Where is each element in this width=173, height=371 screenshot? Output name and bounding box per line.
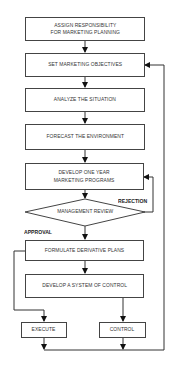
step-label: EXECUTE <box>32 326 56 334</box>
step-execute: EXECUTE <box>21 322 67 338</box>
step-label: SET MARKETING OBJECTIVES <box>48 61 122 69</box>
step-control: CONTROL <box>99 322 146 338</box>
management-review-label: MANAGEMENT REVIEW <box>45 208 125 214</box>
step-develop-programs: DEVELOP ONE YEARMARKETING PROGRAMS <box>25 163 144 190</box>
approval-label: APPROVAL <box>24 229 52 235</box>
step-label: ASSIGN RESPONSIBILITY <box>50 22 119 30</box>
step-formulate-derivative-plans: FORMULATE DERIVATIVE PLANS <box>25 240 144 261</box>
step-label: ANALYZE THE SITUATION <box>54 96 116 104</box>
step-label: FOR MARKETING PLANNING <box>50 29 119 37</box>
step-set-marketing-objectives: SET MARKETING OBJECTIVES <box>25 53 145 77</box>
step-label: DEVELOP A SYSTEM OF CONTROL <box>42 282 127 290</box>
step-label: DEVELOP ONE YEAR <box>54 169 115 177</box>
rejection-label: REJECTION <box>118 198 147 204</box>
step-forecast-environment: FORECAST THE ENVIRONMENT <box>25 124 145 150</box>
step-label: FORMULATE DERIVATIVE PLANS <box>45 247 125 255</box>
step-label: MANAGEMENT REVIEW <box>57 208 113 214</box>
step-develop-control-system: DEVELOP A SYSTEM OF CONTROL <box>25 274 144 298</box>
step-label: CONTROL <box>110 326 135 334</box>
step-assign-responsibility: ASSIGN RESPONSIBILITYFOR MARKETING PLANN… <box>25 17 145 41</box>
step-label: MARKETING PROGRAMS <box>54 177 115 185</box>
step-analyze-situation: ANALYZE THE SITUATION <box>25 88 145 112</box>
step-label: FORECAST THE ENVIRONMENT <box>46 133 124 141</box>
